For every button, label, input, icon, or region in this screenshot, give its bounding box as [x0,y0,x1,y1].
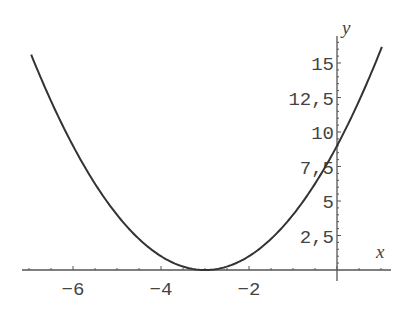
y-tick-label: 10 [311,123,334,145]
x-tick-label: −4 [150,279,173,301]
axes [22,36,391,281]
y-axis-label: y [340,17,351,38]
x-tick-label: −2 [238,279,261,301]
x-tick-label: −6 [62,279,85,301]
tick-labels: −6−4−22,557,51012,515 [62,54,334,301]
y-tick-label: 2,5 [300,227,334,249]
y-tick-label: 15 [311,54,334,76]
x-axis-label: x [375,241,385,262]
plot-area: −6−4−22,557,51012,515 x y [0,0,414,318]
y-tick-label: 5 [323,192,334,214]
y-tick-label: 12,5 [288,89,334,111]
parabola-chart: −6−4−22,557,51012,515 x y [0,0,414,318]
